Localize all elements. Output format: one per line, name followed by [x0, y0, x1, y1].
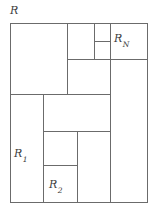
rectangle-partition-figure: R RN R1 R2: [0, 0, 153, 213]
region-r2-label: R2: [49, 179, 62, 190]
outer-rectangle-shape: [11, 24, 148, 203]
partition-diagram-canvas: [0, 0, 153, 213]
region-r1-label: R1: [14, 148, 27, 159]
region-rn-label: RN: [114, 33, 129, 44]
